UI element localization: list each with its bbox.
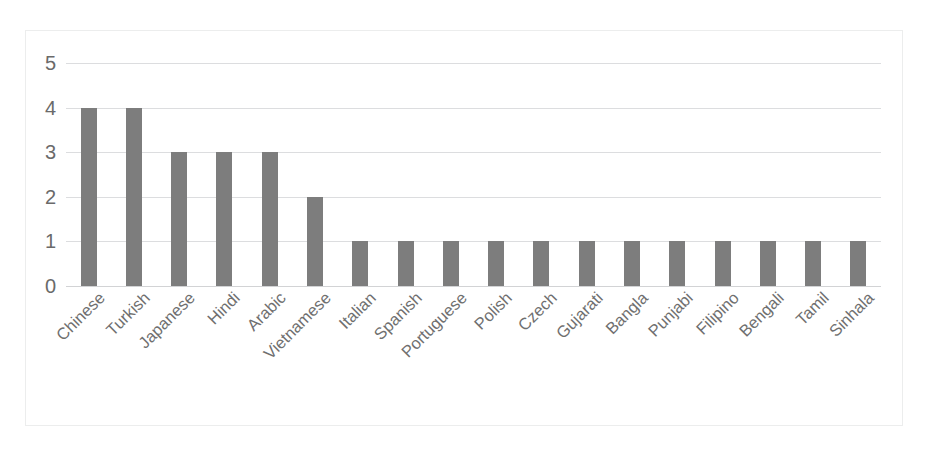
bar[interactable]: [850, 241, 866, 286]
y-axis-tick-label: 2: [45, 187, 56, 207]
bar[interactable]: [533, 241, 549, 286]
x-axis-tick-label: Filipino: [693, 289, 742, 338]
x-axis-tick-label: Polish: [471, 289, 515, 333]
bar[interactable]: [715, 241, 731, 286]
bar[interactable]: [669, 241, 685, 286]
x-axis-tick-label: Bengali: [736, 289, 787, 340]
x-axis-tick-label: Chinese: [53, 289, 108, 344]
bar[interactable]: [262, 152, 278, 286]
y-axis-tick-label: 5: [45, 53, 56, 73]
bar[interactable]: [398, 241, 414, 286]
bar[interactable]: [805, 241, 821, 286]
bar[interactable]: [216, 152, 232, 286]
x-axis-tick-label: Gujarati: [553, 289, 606, 342]
y-axis-tick-label: 1: [45, 231, 56, 251]
x-axis-tick-label: Punjabi: [645, 289, 696, 340]
gridline-0: [66, 286, 881, 287]
y-axis: 012345: [26, 63, 62, 286]
bar[interactable]: [307, 197, 323, 286]
bar[interactable]: [443, 241, 459, 286]
bar[interactable]: [624, 241, 640, 286]
y-axis-tick-label: 4: [45, 98, 56, 118]
plot-area: [66, 63, 881, 286]
bar[interactable]: [488, 241, 504, 286]
bar[interactable]: [352, 241, 368, 286]
y-axis-tick-label: 0: [45, 276, 56, 296]
bar[interactable]: [126, 108, 142, 286]
y-axis-tick-label: 3: [45, 142, 56, 162]
x-axis-tick-label: Hindi: [205, 289, 244, 328]
x-axis-tick-label: Bangla: [603, 289, 652, 338]
bar[interactable]: [171, 152, 187, 286]
bar[interactable]: [81, 108, 97, 286]
x-axis-tick-label: Sinhala: [826, 289, 877, 340]
x-axis-tick-label: Tamil: [793, 289, 832, 328]
chart-frame: 012345 ChineseTurkishJapaneseHindiArabic…: [25, 30, 903, 426]
bar[interactable]: [579, 241, 595, 286]
x-axis: ChineseTurkishJapaneseHindiArabicVietnam…: [66, 289, 881, 409]
bar[interactable]: [760, 241, 776, 286]
bar-series: [66, 63, 881, 286]
